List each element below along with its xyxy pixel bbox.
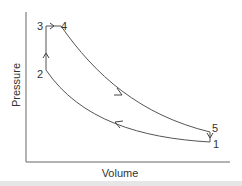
y-axis-label: Pressure: [10, 63, 22, 107]
point-label-2: 2: [37, 68, 43, 80]
arrow-down-right-icon: [114, 88, 122, 95]
point-label-4: 4: [61, 20, 67, 32]
process-4-5: [61, 26, 210, 132]
cycle: [46, 26, 210, 142]
process-1-2: [46, 70, 210, 142]
point-label-3: 3: [37, 20, 43, 32]
x-axis-label: Volume: [102, 167, 139, 179]
point-labels: 3 4 2 5 1: [37, 20, 219, 150]
pv-diagram: Pressure Volume 3 4 2 5: [0, 0, 242, 186]
point-label-1: 1: [213, 138, 219, 150]
axes: [26, 12, 230, 162]
bottom-band: [0, 181, 242, 186]
point-label-5: 5: [212, 122, 218, 134]
arrows: [43, 23, 213, 138]
